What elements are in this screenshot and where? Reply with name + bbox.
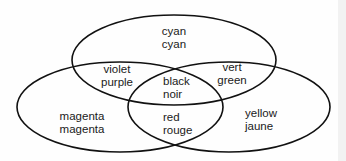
region-label-magenta-yellow: red rouge xyxy=(163,111,192,136)
label-line-2: jaune xyxy=(245,120,277,133)
region-label-cyan-magenta: violet purple xyxy=(101,63,133,88)
region-label-cyan: cyan cyan xyxy=(162,25,186,50)
label-line-1: cyan xyxy=(162,25,186,38)
region-label-cyan-yellow: vert green xyxy=(217,61,246,86)
label-line-1: magenta xyxy=(60,110,105,123)
region-label-yellow: yellow jaune xyxy=(245,107,277,132)
label-line-1: violet xyxy=(101,63,133,76)
region-label-all: black noir xyxy=(163,75,190,100)
region-label-magenta: magenta magenta xyxy=(60,110,105,135)
label-line-2: purple xyxy=(101,76,133,89)
label-line-2: magenta xyxy=(60,123,105,136)
label-line-1: vert xyxy=(217,61,246,74)
label-line-2: noir xyxy=(163,88,190,101)
label-line-1: black xyxy=(163,75,190,88)
venn-diagram: cyan cyan violet purple vert green black… xyxy=(0,0,346,161)
label-line-2: rouge xyxy=(163,124,192,137)
label-line-1: red xyxy=(163,111,192,124)
label-line-2: green xyxy=(217,74,246,87)
label-line-2: cyan xyxy=(162,38,186,51)
label-line-1: yellow xyxy=(245,107,277,120)
